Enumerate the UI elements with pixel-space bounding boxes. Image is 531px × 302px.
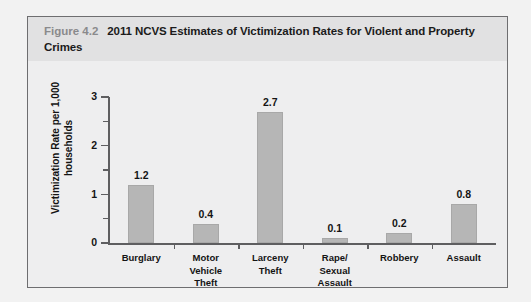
category-label: MotorVehicleTheft: [175, 252, 237, 288]
bar: [386, 233, 412, 243]
figure-title: Figure 4.22011 NCVS Estimates of Victimi…: [44, 24, 493, 55]
bar: [257, 112, 283, 243]
y-tick-label: 2: [91, 139, 97, 151]
x-tick: [432, 243, 434, 249]
category-label: LarcenyTheft: [239, 252, 301, 277]
category-label: Robbery: [368, 252, 430, 265]
bar-value-label: 0.2: [392, 217, 407, 229]
bar-value-label: 1.2: [134, 169, 149, 181]
y-tick-major: 1: [101, 194, 109, 196]
figure-number: Figure 4.2: [44, 25, 98, 37]
y-tick-minor: [103, 218, 109, 220]
plot-area: 0123 1.20.42.70.10.20.8 BurglaryMotorVeh…: [109, 97, 496, 243]
y-tick-major: 3: [101, 96, 109, 98]
x-tick: [238, 243, 240, 249]
figure-title-text: 2011 NCVS Estimates of Victimization Rat…: [44, 25, 475, 53]
bar-value-label: 2.7: [263, 96, 278, 108]
y-tick-label: 3: [91, 90, 97, 102]
x-tick: [303, 243, 305, 249]
category-label: Assault: [433, 252, 495, 265]
y-tick-minor: [103, 121, 109, 123]
bar: [322, 238, 348, 243]
category-label: Rape/SexualAssault: [304, 252, 366, 288]
bar-value-label: 0.1: [327, 222, 342, 234]
x-tick: [367, 243, 369, 249]
y-tick-label: 0: [91, 236, 97, 248]
y-tick-major: 2: [101, 145, 109, 147]
bar: [451, 204, 477, 243]
y-tick-label: 1: [91, 188, 97, 200]
y-axis-title: Victimization Rate per 1,000 households: [49, 68, 75, 228]
y-tick-major: 0: [101, 242, 109, 244]
chart-body: Victimization Rate per 1,000 households …: [28, 61, 507, 288]
y-tick-minor: [103, 169, 109, 171]
bar-value-label: 0.8: [456, 188, 471, 200]
bar: [193, 224, 219, 243]
x-tick: [174, 243, 176, 249]
figure-card: Figure 4.22011 NCVS Estimates of Victimi…: [27, 16, 508, 288]
figure-header: Figure 4.22011 NCVS Estimates of Victimi…: [28, 17, 507, 61]
category-label: Burglary: [110, 252, 172, 265]
bar-value-label: 0.4: [198, 208, 213, 220]
bar: [128, 185, 154, 243]
